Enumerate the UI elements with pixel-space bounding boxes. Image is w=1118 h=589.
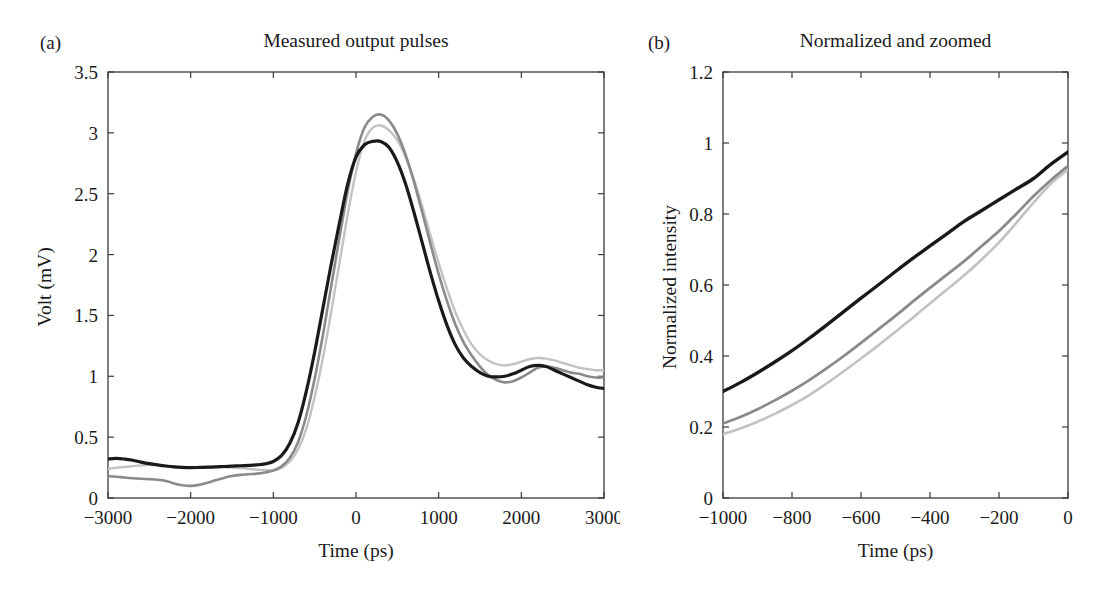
- x-tick-label: −600: [841, 507, 880, 528]
- y-tick-label: 3.5: [74, 62, 98, 83]
- plot-frame: [108, 72, 604, 498]
- panel-b-plot: −1000−800−600−400−200000.20.40.60.811.2: [620, 0, 1118, 589]
- y-tick-label: 2: [89, 245, 99, 266]
- series-curve-lightgray: [108, 125, 604, 470]
- series-curve-black: [108, 141, 604, 468]
- panel-a: (a) Measured output pulses Time (ps) Vol…: [0, 0, 620, 589]
- y-tick-label: 0: [89, 488, 99, 509]
- y-tick-label: 1: [704, 133, 714, 154]
- y-tick-label: 0.5: [74, 427, 98, 448]
- x-tick-label: 3000: [585, 507, 620, 528]
- panel-a-plot: −3000−2000−1000010002000300000.511.522.5…: [0, 0, 620, 589]
- y-tick-label: 1.5: [74, 305, 98, 326]
- x-tick-label: −1000: [699, 507, 748, 528]
- figure-root: (a) Measured output pulses Time (ps) Vol…: [0, 0, 1118, 589]
- x-tick-label: −200: [979, 507, 1018, 528]
- panel-b: (b) Normalized and zoomed Time (ps) Norm…: [620, 0, 1118, 589]
- x-tick-label: −800: [772, 507, 811, 528]
- x-tick-label: 0: [1063, 507, 1073, 528]
- y-tick-label: 1.2: [689, 62, 713, 83]
- x-tick-label: 2000: [502, 507, 540, 528]
- series-curve-black: [723, 152, 1068, 392]
- y-tick-label: 0.6: [689, 275, 713, 296]
- x-tick-label: −3000: [84, 507, 133, 528]
- series-curve-gray: [723, 166, 1068, 423]
- y-tick-label: 0.4: [689, 346, 713, 367]
- x-tick-label: −1000: [249, 507, 298, 528]
- x-tick-label: −400: [910, 507, 949, 528]
- y-tick-label: 3: [89, 123, 99, 144]
- x-tick-label: 0: [351, 507, 361, 528]
- plot-frame: [723, 72, 1068, 498]
- y-tick-label: 2.5: [74, 184, 98, 205]
- series-curve-lightgray: [723, 170, 1068, 434]
- x-tick-label: −2000: [166, 507, 215, 528]
- y-tick-label: 0.8: [689, 204, 713, 225]
- x-tick-label: 1000: [420, 507, 458, 528]
- y-tick-label: 0: [704, 488, 714, 509]
- y-tick-label: 1: [89, 366, 99, 387]
- y-tick-label: 0.2: [689, 417, 713, 438]
